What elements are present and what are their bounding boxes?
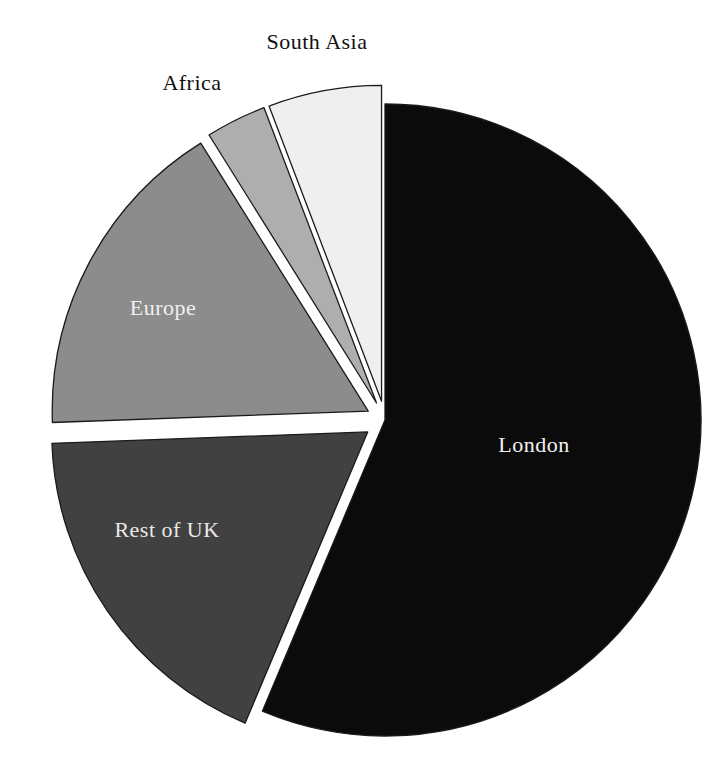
slice-label-south-asia: South Asia [267,29,368,54]
slice-label-europe: Europe [130,295,197,320]
slice-label-africa: Africa [162,70,221,95]
pie-chart: LondonRest of UKEuropeAfricaSouth Asia [0,0,722,758]
slice-label-rest-of-uk: Rest of UK [114,517,219,542]
figure-page: LondonRest of UKEuropeAfricaSouth Asia [0,0,722,758]
slice-label-london: London [498,432,569,457]
